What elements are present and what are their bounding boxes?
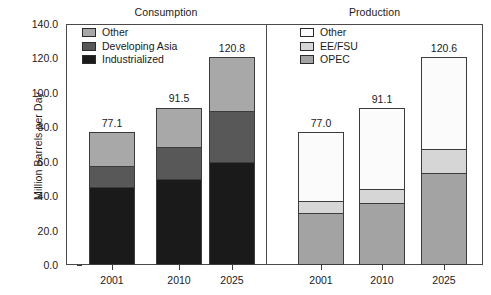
- y-axis-tick-mark: [77, 265, 82, 266]
- legend-item-developing-asia: Developing Asia: [82, 40, 177, 54]
- legend-swatch-icon: [300, 55, 314, 64]
- bar-segment-developing-asia: [157, 147, 201, 179]
- bar-total-label: 77.0: [291, 117, 351, 129]
- bar-consumption-2001: [89, 132, 135, 265]
- bar-production-2010: [359, 108, 405, 265]
- x-axis-tick-mark: [321, 265, 322, 270]
- bar-segment-other: [210, 58, 254, 111]
- legend-item-label: Other: [320, 27, 346, 38]
- x-axis-tick-label: 2001: [291, 274, 351, 286]
- x-axis-tick-mark: [444, 265, 445, 270]
- y-axis-tick-label: 60.0: [16, 157, 58, 167]
- bar-production-2001: [298, 132, 344, 265]
- y-axis-tick-label: 100.0: [16, 88, 58, 98]
- y-axis-tick-label: 80.0: [16, 122, 58, 132]
- legend-item-opec: OPEC: [300, 53, 358, 67]
- stacked-bar-chart-figure: Million Barrels per Day 0.020.040.060.08…: [0, 0, 491, 295]
- legend-production: OtherEE/FSUOPEC: [300, 26, 358, 67]
- y-axis-tick-labels: 0.020.040.060.080.0100.0120.0140.0: [16, 0, 58, 295]
- bar-total-label: 91.5: [149, 92, 209, 104]
- legend-item-other: Other: [300, 26, 358, 40]
- legend-item-other: Other: [82, 26, 177, 40]
- x-axis-tick-mark: [179, 265, 180, 270]
- legend-consumption: OtherDeveloping AsiaIndustrialized: [82, 26, 177, 67]
- x-axis-tick-mark: [382, 265, 383, 270]
- legend-item-label: Industrialized: [102, 54, 164, 65]
- y-axis-tick-label: 20.0: [16, 226, 58, 236]
- legend-item-label: Other: [102, 27, 128, 38]
- bar-segment-other: [299, 133, 343, 200]
- x-axis-tick-mark: [112, 265, 113, 270]
- x-axis-tick-label: 2010: [149, 274, 209, 286]
- y-axis-tick-label: 40.0: [16, 191, 58, 201]
- bar-total-label: 120.6: [414, 42, 474, 54]
- legend-item-industrialized: Industrialized: [82, 53, 177, 67]
- bar-segment-other: [422, 58, 466, 148]
- bar-segment-opec: [360, 203, 404, 263]
- bar-consumption-2025: [209, 57, 255, 265]
- y-axis-tick-label: 140.0: [16, 19, 58, 29]
- legend-item-label: Developing Asia: [102, 41, 177, 52]
- x-axis-tick-label: 2025: [202, 274, 262, 286]
- x-axis-tick-mark: [232, 265, 233, 270]
- bar-segment-developing-asia: [90, 166, 134, 187]
- bar-total-label: 120.8: [202, 42, 262, 54]
- legend-swatch-icon: [82, 42, 96, 51]
- bar-segment-ee-fsu: [422, 149, 466, 174]
- x-axis-tick-label: 2001: [82, 274, 142, 286]
- bar-segment-opec: [422, 173, 466, 264]
- legend-swatch-icon: [82, 28, 96, 37]
- bar-segment-ee-fsu: [299, 201, 343, 214]
- bar-segment-other: [90, 133, 134, 166]
- bar-production-2025: [421, 57, 467, 265]
- legend-item-label: EE/FSU: [320, 41, 358, 52]
- x-axis-tick-label: 2025: [414, 274, 474, 286]
- bar-segment-other: [157, 109, 201, 148]
- y-axis-tick-label: 0.0: [16, 260, 58, 270]
- panel-title-production: Production: [266, 6, 483, 18]
- legend-item-ee-fsu: EE/FSU: [300, 40, 358, 54]
- y-axis-tick-label: 120.0: [16, 53, 58, 63]
- bar-consumption-2010: [156, 108, 202, 266]
- bar-segment-developing-asia: [210, 111, 254, 162]
- bar-segment-industrialized: [210, 162, 254, 264]
- x-axis-tick-label: 2010: [352, 274, 412, 286]
- bar-segment-opec: [299, 213, 343, 264]
- bar-total-label: 77.1: [82, 117, 142, 129]
- bar-total-label: 91.1: [352, 93, 412, 105]
- bar-segment-other: [360, 109, 404, 189]
- legend-swatch-icon: [82, 55, 96, 64]
- legend-swatch-icon: [300, 42, 314, 51]
- bar-segment-industrialized: [90, 187, 134, 264]
- legend-item-label: OPEC: [320, 54, 350, 65]
- legend-swatch-icon: [300, 28, 314, 37]
- bar-segment-ee-fsu: [360, 189, 404, 204]
- bar-segment-industrialized: [157, 179, 201, 264]
- panel-title-consumption: Consumption: [66, 6, 266, 18]
